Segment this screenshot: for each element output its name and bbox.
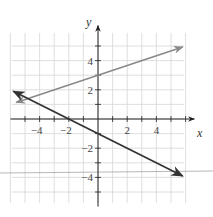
reference-line bbox=[0, 171, 213, 173]
x-tick-label: 2 bbox=[124, 124, 130, 136]
coordinate-plane: −4−224−4−224xy bbox=[0, 0, 213, 217]
x-axis-label: x bbox=[196, 126, 203, 140]
line-series-1 bbox=[16, 47, 182, 102]
y-tick-label: 4 bbox=[88, 55, 94, 67]
y-tick-label: −4 bbox=[81, 171, 93, 183]
y-tick-label: −2 bbox=[81, 142, 93, 154]
x-tick-label: −4 bbox=[31, 124, 43, 136]
y-axis-label: y bbox=[85, 15, 92, 29]
y-tick-label: 2 bbox=[88, 84, 94, 96]
x-tick-label: −2 bbox=[60, 124, 72, 136]
x-tick-label: 4 bbox=[154, 124, 160, 136]
